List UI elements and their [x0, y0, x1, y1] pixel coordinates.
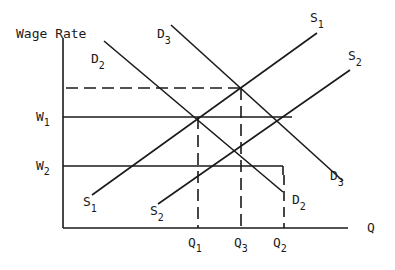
s1-bottom-label: S1 — [83, 194, 97, 214]
w2-label: W2 — [36, 158, 50, 177]
w1-label: W1 — [36, 109, 50, 128]
s1-top-label: S1 — [310, 10, 324, 30]
q2-label: Q2 — [273, 235, 287, 254]
q3-label: Q3 — [234, 235, 248, 254]
demand-curve-d3 — [171, 25, 343, 181]
d3-bottom-label: D3 — [330, 168, 344, 188]
labor-market-diagram: Wage Rate Q W1 W2 Q1 Q3 Q2 D2 D3 S1 S2 S… — [0, 0, 395, 270]
x-axis-label: Q — [367, 220, 375, 235]
s2-bottom-label: S2 — [150, 203, 164, 223]
supply-curve-s2 — [158, 70, 350, 204]
s2-top-label: S2 — [348, 48, 362, 68]
q1-label: Q1 — [188, 235, 202, 254]
d2-bottom-label: D2 — [292, 192, 306, 212]
d2-top-label: D2 — [91, 51, 105, 71]
y-axis-label: Wage Rate — [16, 26, 87, 41]
d3-top-label: D3 — [157, 26, 171, 46]
